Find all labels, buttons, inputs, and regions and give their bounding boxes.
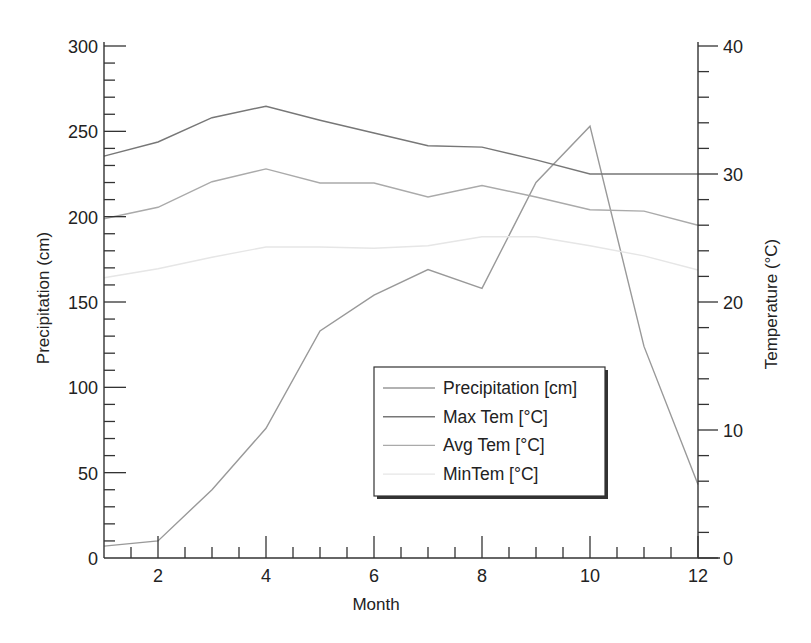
- x-tick-label: 12: [688, 566, 708, 586]
- legend-label: Max Tem [°C]: [443, 407, 548, 427]
- series-line-1: [104, 106, 698, 174]
- y-tick-label: 250: [68, 122, 98, 142]
- y-tick-label: 50: [78, 464, 98, 484]
- series-line-3: [104, 237, 698, 278]
- x-tick-label: 6: [369, 566, 379, 586]
- axes: 05010015020025030001020304024681012: [68, 37, 743, 586]
- y2-tick-label: 20: [723, 293, 743, 313]
- y-tick-label: 150: [68, 293, 98, 313]
- y2-tick-label: 30: [723, 165, 743, 185]
- legend-label: Avg Tem [°C]: [443, 435, 545, 455]
- x-axis-label: Month: [352, 595, 399, 614]
- dual-axis-line-chart: 05010015020025030001020304024681012 Prec…: [0, 0, 811, 643]
- y-tick-label: 300: [68, 37, 98, 57]
- series-line-2: [104, 169, 698, 225]
- y-tick-label: 100: [68, 378, 98, 398]
- y2-tick-label: 40: [723, 37, 743, 57]
- y-tick-label: 200: [68, 208, 98, 228]
- y-tick-label: 0: [88, 549, 98, 569]
- legend-label: Precipitation [cm]: [443, 378, 577, 398]
- legend: Precipitation [cm]Max Tem [°C]Avg Tem [°…: [374, 367, 608, 499]
- y2-tick-label: 0: [723, 549, 733, 569]
- legend-label: MinTem [°C]: [443, 464, 538, 484]
- y2-axis-label: Temperature (°C): [762, 239, 781, 370]
- x-tick-label: 2: [153, 566, 163, 586]
- y-axis-label: Precipitation (cm): [34, 232, 53, 364]
- x-tick-label: 10: [580, 566, 600, 586]
- x-tick-label: 4: [261, 566, 271, 586]
- y2-tick-label: 10: [723, 421, 743, 441]
- x-tick-label: 8: [477, 566, 487, 586]
